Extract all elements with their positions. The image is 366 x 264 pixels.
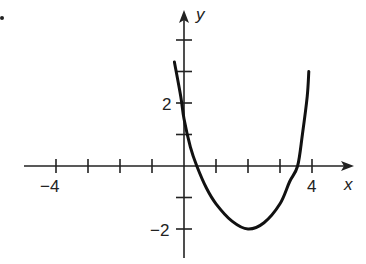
y-tick-label-neg2: −2 bbox=[150, 221, 169, 240]
x-tick-label-4: 4 bbox=[307, 177, 316, 196]
x-tick-label-neg4: −4 bbox=[40, 177, 59, 196]
y-axis-label: y bbox=[195, 5, 206, 24]
corner-dot bbox=[0, 16, 4, 20]
graph-figure: y x −4 4 2 −2 bbox=[0, 0, 366, 264]
y-axis bbox=[176, 10, 192, 258]
x-axis bbox=[24, 159, 354, 173]
x-axis-label: x bbox=[343, 175, 353, 194]
graph-svg: y x −4 4 2 −2 bbox=[0, 0, 366, 264]
function-curve bbox=[174, 62, 308, 229]
y-tick-label-2: 2 bbox=[162, 95, 171, 114]
